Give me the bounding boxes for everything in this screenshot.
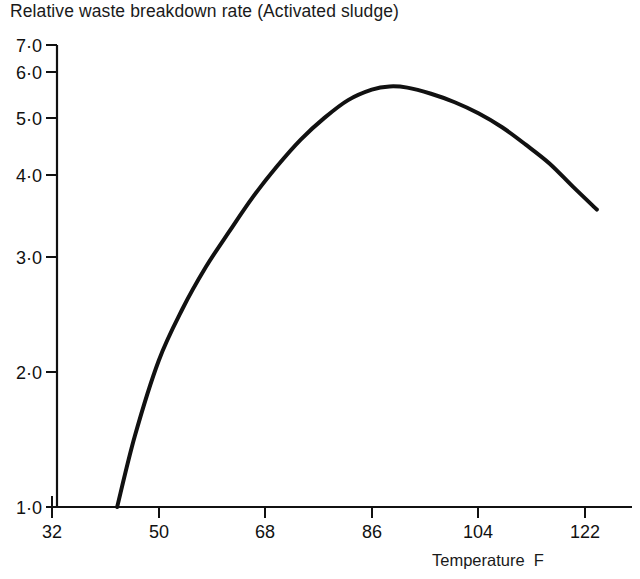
data-series-line bbox=[117, 86, 597, 507]
x-tick-label: 104 bbox=[463, 522, 493, 542]
chart-plot-area: 7·0 6·0 5·0 4·0 3·0 2·0 1·0 32 50 68 86 … bbox=[0, 0, 640, 579]
y-tick-label: 6·0 bbox=[16, 63, 42, 83]
x-tick-label: 32 bbox=[42, 522, 62, 542]
y-tick-label: 2·0 bbox=[16, 363, 42, 383]
x-tick-label: 86 bbox=[362, 522, 382, 542]
x-tick-label: 122 bbox=[570, 522, 600, 542]
y-tick-label: 4·0 bbox=[16, 166, 42, 186]
x-tick-label: 68 bbox=[255, 522, 275, 542]
y-tick-label: 5·0 bbox=[16, 109, 42, 129]
y-tick-label: 7·0 bbox=[16, 36, 42, 56]
y-tick-labels: 7·0 6·0 5·0 4·0 3·0 2·0 1·0 bbox=[16, 36, 42, 518]
x-axis-title: Temperature F bbox=[432, 551, 544, 570]
chart-figure: Relative waste breakdown rate (Activated… bbox=[0, 0, 640, 579]
y-tick-label: 3·0 bbox=[16, 248, 42, 268]
y-tick-label: 1·0 bbox=[16, 498, 42, 518]
x-tick-label: 50 bbox=[149, 522, 169, 542]
x-tick-labels: 32 50 68 86 104 122 bbox=[42, 522, 600, 542]
y-tick-marks bbox=[46, 45, 57, 507]
